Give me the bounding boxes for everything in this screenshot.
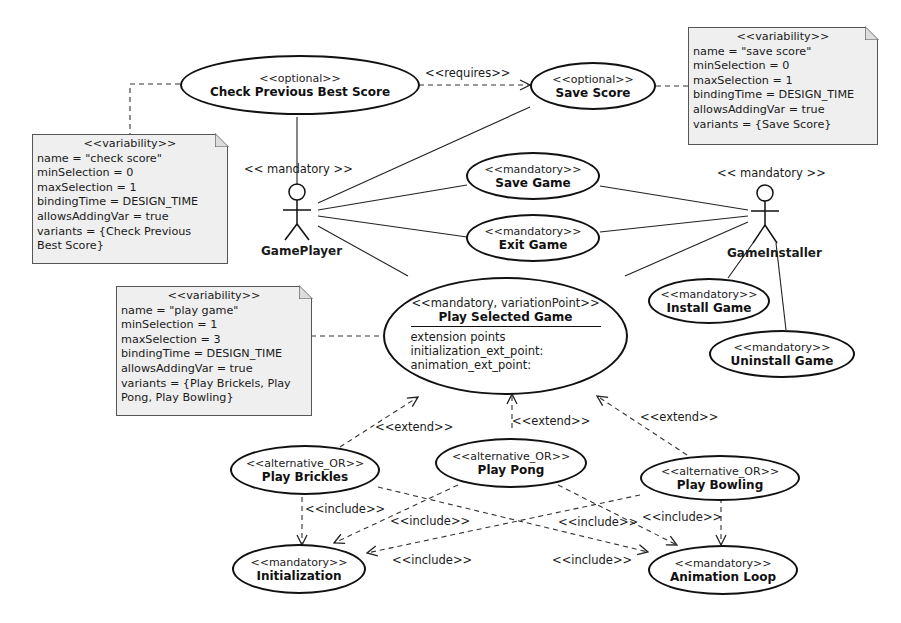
- usecase-play-bowling[interactable]: <<alternative_OR>> Play Bowling: [640, 455, 800, 501]
- note-line: minSelection = 0: [693, 59, 873, 74]
- note-line: bindingTime = DESIGN_TIME: [121, 347, 307, 362]
- note-line: allowsAddingVar = true: [693, 103, 873, 118]
- actor-gameplayer-stereotype: << mandatory >>: [244, 162, 353, 176]
- note-line: minSelection = 1: [121, 318, 307, 333]
- usecase-name: Exit Game: [499, 238, 568, 252]
- note-line: maxSelection = 3: [121, 333, 307, 348]
- note-anchor-checkscore: [130, 84, 180, 135]
- note-line: maxSelection = 1: [37, 181, 223, 196]
- extension-points-divider: [411, 326, 601, 327]
- label-extend-bowling: <<extend>>: [640, 410, 718, 424]
- note-check-score[interactable]: <<variability>> name = "check score" min…: [32, 134, 228, 264]
- usecase-uninstall-game[interactable]: <<mandatory>> Uninstall Game: [709, 330, 855, 378]
- usecase-stereotype: <<mandatory, variationPoint>>: [411, 297, 599, 310]
- note-line: name = "check score": [37, 152, 223, 167]
- gameinstaller-figure: [751, 185, 779, 243]
- label-requires: <<requires>>: [425, 66, 510, 80]
- usecase-play-pong[interactable]: <<alternative_OR>> Play Pong: [435, 438, 587, 488]
- usecase-stereotype: <<mandatory>>: [660, 288, 757, 301]
- label-include-brickles-init: <<include>>: [305, 502, 385, 516]
- note-line: variants = {Check Previous: [37, 225, 223, 240]
- gameplayer-figure: [283, 184, 311, 240]
- actor-gameplayer-name: GamePlayer: [261, 244, 342, 258]
- note-line: variants = {Play Brickels, Play: [121, 377, 307, 392]
- usecase-exit-game[interactable]: <<mandatory>> Exit Game: [466, 214, 600, 262]
- extension-point-initialization: initialization_ext_point:: [411, 344, 601, 358]
- usecase-stereotype: <<optional>>: [259, 72, 340, 85]
- note-play-game[interactable]: <<variability>> name = "play game" minSe…: [116, 286, 312, 416]
- usecase-name: Play Selected Game: [438, 310, 572, 324]
- usecase-stereotype: <<alternative_OR>>: [661, 465, 779, 478]
- usecase-stereotype: <<mandatory>>: [250, 556, 347, 569]
- note-line: variants = {Save Score}: [693, 118, 873, 133]
- label-include-bowling-anim: <<include>>: [642, 510, 722, 524]
- usecase-name: Save Game: [495, 176, 570, 190]
- label-include-pong-init: <<include>>: [390, 514, 470, 528]
- note-line: allowsAddingVar = true: [37, 210, 223, 225]
- usecase-save-game[interactable]: <<mandatory>> Save Game: [466, 152, 600, 200]
- assoc-installer-savegame: [600, 186, 748, 210]
- extend-bowling: [597, 396, 687, 455]
- note-line: name = "play game": [121, 304, 307, 319]
- usecase-stereotype: <<mandatory>>: [674, 557, 771, 570]
- use-case-diagram: << mandatory >> GamePlayer << mandatory …: [0, 0, 901, 623]
- note-title: <<variability>>: [37, 137, 223, 152]
- note-fold-icon: [299, 285, 313, 299]
- extension-points-heading: extension points: [411, 330, 601, 344]
- label-extend-brickles: <<extend>>: [375, 420, 453, 434]
- assoc-gameplayer-savegame: [318, 185, 467, 210]
- note-fold-icon: [215, 133, 229, 147]
- label-include-pong-anim: <<include>>: [558, 515, 638, 529]
- usecase-name: Animation Loop: [670, 570, 776, 584]
- note-line: minSelection = 0: [37, 166, 223, 181]
- note-line: bindingTime = DESIGN_TIME: [37, 195, 223, 210]
- usecase-name: Install Game: [667, 301, 752, 315]
- note-save-score[interactable]: <<variability>> name = "save score" minS…: [688, 27, 878, 145]
- usecase-animation-loop[interactable]: <<mandatory>> Animation Loop: [648, 545, 798, 595]
- extension-point-animation: animation_ext_point:: [411, 358, 601, 372]
- usecase-name: Uninstall Game: [731, 354, 834, 368]
- usecase-stereotype: <<alternative_OR>>: [246, 457, 364, 470]
- label-include-bowling-init: <<include>>: [392, 553, 472, 567]
- usecase-stereotype: <<mandatory>>: [484, 225, 581, 238]
- note-fold-icon: [865, 26, 879, 40]
- usecase-name: Play Brickles: [262, 470, 348, 484]
- assoc-gameplayer-exitgame: [318, 216, 467, 237]
- note-title: <<variability>>: [693, 30, 873, 45]
- usecase-stereotype: <<optional>>: [552, 73, 633, 86]
- actor-gameinstaller-name: GameInstaller: [727, 246, 822, 260]
- assoc-installer-exitgame: [600, 216, 748, 232]
- note-line: maxSelection = 1: [693, 74, 873, 89]
- usecase-check-previous-best-score[interactable]: <<optional>> Check Previous Best Score: [180, 55, 420, 115]
- note-line: Pong, Play Bowling}: [121, 391, 307, 406]
- note-line: allowsAddingVar = true: [121, 362, 307, 377]
- usecase-stereotype: <<mandatory>>: [733, 341, 830, 354]
- actor-gameinstaller-stereotype: << mandatory >>: [717, 166, 826, 180]
- usecase-name: Initialization: [256, 569, 341, 583]
- note-title: <<variability>>: [121, 289, 307, 304]
- usecase-name: Play Pong: [478, 463, 545, 477]
- note-line: Best Score}: [37, 239, 223, 254]
- usecase-stereotype: <<mandatory>>: [484, 163, 581, 176]
- usecase-save-score[interactable]: <<optional>> Save Score: [530, 62, 656, 110]
- label-include-brickles-anim: <<include>>: [552, 553, 632, 567]
- usecase-name: Check Previous Best Score: [210, 85, 390, 99]
- usecase-play-selected-game[interactable]: <<mandatory, variationPoint>> Play Selec…: [383, 277, 628, 395]
- usecase-name: Save Score: [556, 86, 631, 100]
- note-line: bindingTime = DESIGN_TIME: [693, 88, 873, 103]
- usecase-install-game[interactable]: <<mandatory>> Install Game: [648, 278, 770, 324]
- usecase-name: Play Bowling: [677, 478, 763, 492]
- label-extend-pong: <<extend>>: [512, 414, 590, 428]
- usecase-stereotype: <<alternative_OR>>: [452, 450, 570, 463]
- usecase-play-brickles[interactable]: <<alternative_OR>> Play Brickles: [230, 445, 380, 495]
- note-line: name = "save score": [693, 45, 873, 60]
- usecase-initialization[interactable]: <<mandatory>> Initialization: [232, 544, 366, 594]
